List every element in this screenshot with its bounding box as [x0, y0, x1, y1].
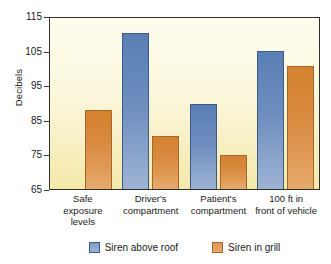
legend-entry-siren-above-roof: Siren above roof — [89, 242, 178, 253]
bar-siren-above-roof-drivers-compartment — [122, 33, 149, 189]
x-label-line-1: Safe — [50, 193, 116, 205]
y-tick-mark-65 — [44, 190, 49, 191]
bar-siren-above-roof-100-ft-in-front-of-vehicle — [257, 51, 284, 190]
y-tick-label-85: 85 — [18, 116, 42, 126]
y-tick-label-75: 75 — [18, 150, 42, 160]
bar-siren-in-grill-safe-exposure-levels — [85, 110, 112, 189]
legend-swatch-icon-siren-above-roof — [89, 242, 100, 253]
bar-groups — [50, 18, 319, 189]
bar-siren-in-grill-drivers-compartment — [152, 136, 179, 189]
bar-chart: Decibels 115 105 95 85 75 65 — [0, 0, 331, 264]
legend-label-siren-above-roof: Siren above roof — [105, 242, 178, 253]
x-label-line-2: compartment — [118, 205, 184, 217]
bar-siren-in-grill-100-ft-in-front-of-vehicle — [287, 66, 314, 189]
bar-siren-above-roof-patients-compartment — [190, 104, 217, 190]
bar-group-patients-compartment — [185, 18, 252, 189]
y-tick-label-105: 105 — [18, 47, 42, 57]
x-label-line-2: front of vehicle — [253, 205, 319, 217]
x-label-patients-compartment: Patient's compartment — [185, 193, 253, 228]
x-axis-category-labels: Safe exposure levels Driver's compartmen… — [49, 193, 320, 228]
x-label-line-1: 100 ft in — [253, 193, 319, 205]
x-label-100-ft-in-front-of-vehicle: 100 ft in front of vehicle — [252, 193, 320, 228]
legend-label-siren-in-grill: Siren in grill — [228, 242, 280, 253]
bar-group-100-ft-in-front-of-vehicle — [252, 18, 319, 189]
y-tick-label-65: 65 — [18, 185, 42, 195]
bar-group-safe-exposure-levels — [50, 18, 117, 189]
x-label-line-1: Driver's — [118, 193, 184, 205]
plot-area — [49, 17, 320, 190]
x-label-drivers-compartment: Driver's compartment — [117, 193, 185, 228]
bar-group-drivers-compartment — [117, 18, 184, 189]
bar-siren-in-grill-patients-compartment — [220, 155, 247, 189]
legend-swatch-icon-siren-in-grill — [212, 242, 223, 253]
y-tick-label-115: 115 — [18, 12, 42, 22]
legend-entry-siren-in-grill: Siren in grill — [212, 242, 280, 253]
x-label-line-1: Patient's — [186, 193, 252, 205]
x-label-line-2: exposure — [50, 205, 116, 217]
x-label-line-3: levels — [50, 216, 116, 228]
chart-legend: Siren above roof Siren in grill — [49, 242, 320, 253]
x-label-line-2: compartment — [186, 205, 252, 217]
y-tick-label-95: 95 — [18, 81, 42, 91]
y-axis-tick-labels: 115 105 95 85 75 65 — [18, 0, 42, 264]
x-label-safe-exposure-levels: Safe exposure levels — [49, 193, 117, 228]
